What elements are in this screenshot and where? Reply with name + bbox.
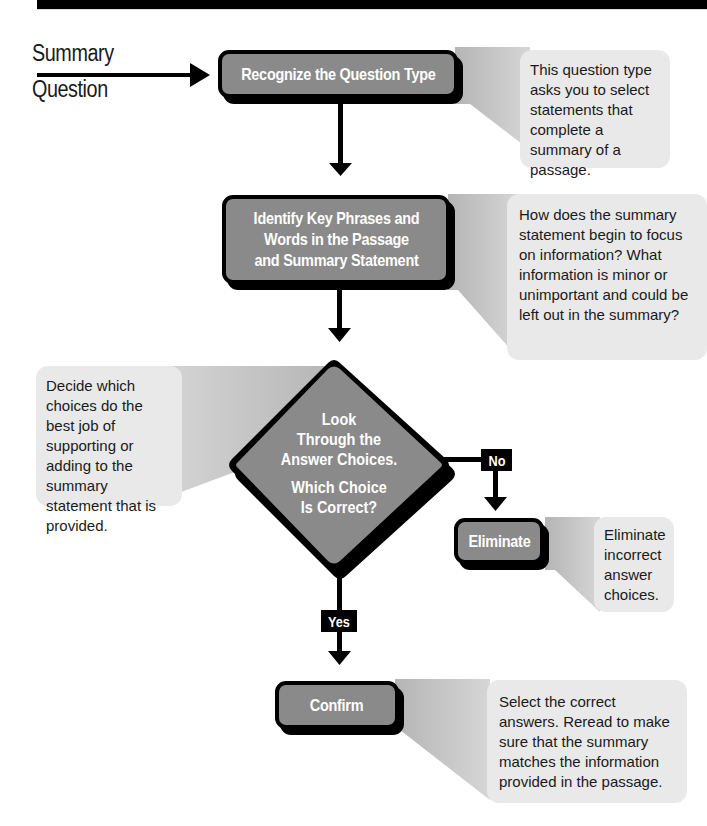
decision-line3: Answer Choices. <box>267 450 412 470</box>
step-recognize-label: Recognize the Question Type <box>241 64 435 85</box>
decision-line1: Look <box>267 410 412 430</box>
callout-wedge-5 <box>395 679 490 800</box>
step-confirm-label: Confirm <box>310 695 364 716</box>
decision-question-line2: Is Correct? <box>267 498 412 518</box>
start-arrow <box>37 63 210 87</box>
decision-text: Look Through the Answer Choices. Which C… <box>254 410 424 518</box>
step-recognize-box: Recognize the Question Type <box>218 50 458 98</box>
step-eliminate-label: Eliminate <box>468 531 530 552</box>
callout-wedge-1 <box>455 47 530 150</box>
step-identify-label-line2: Words in the Passage <box>253 229 419 250</box>
step-identify-box: Identify Key Phrases and Words in the Pa… <box>222 195 450 284</box>
step-identify-label-line1: Identify Key Phrases and <box>253 208 419 229</box>
note-decision: Decide which choices do the best job of … <box>36 366 182 506</box>
callout-wedge-4 <box>545 517 600 612</box>
decision-question-line1: Which Choice <box>267 478 412 498</box>
no-branch-label: No <box>481 449 512 471</box>
step-identify-label-line3: and Summary Statement <box>253 250 419 271</box>
note-identify: How does the summary statement begin to … <box>507 194 707 360</box>
arrow-identify-to-decision <box>328 290 351 342</box>
yes-branch-text: Yes <box>328 613 350 630</box>
arrow-recognize-to-identify <box>329 104 352 176</box>
note-eliminate: Eliminate incorrect answer choices. <box>594 517 674 612</box>
note-confirm: Select the correct answers. Reread to ma… <box>487 680 687 803</box>
step-confirm-box: Confirm <box>275 681 399 729</box>
no-branch-text: No <box>488 452 505 469</box>
yes-branch-label: Yes <box>321 610 357 632</box>
step-eliminate-box: Eliminate <box>454 518 544 564</box>
decision-line2: Through the <box>267 430 412 450</box>
note-recognize: This question type asks you to select st… <box>520 50 670 168</box>
